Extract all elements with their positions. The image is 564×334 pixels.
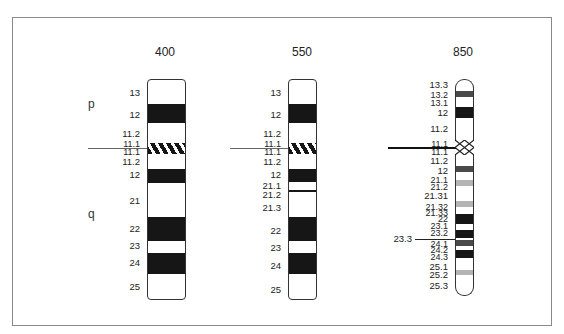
chromosome-850-q-arm: [455, 155, 474, 296]
band-q23-2: [456, 230, 473, 238]
label: 11.2: [241, 129, 281, 139]
label: 23.2: [412, 229, 448, 237]
label: 25.2: [412, 270, 448, 280]
marker-label-23-3: 23.3: [380, 234, 412, 244]
band-q12: [456, 166, 473, 172]
resolution-400-header: 400: [145, 45, 185, 59]
resolution-850-header: 850: [443, 45, 483, 59]
label: 13.3: [412, 80, 448, 90]
q-arm-label: q: [88, 207, 95, 221]
label: 11.2: [100, 129, 140, 139]
label: 21.2: [241, 190, 281, 200]
band-centromere-hatched: [289, 143, 316, 154]
label: 12: [412, 108, 448, 118]
centromere-crosshatch-850: [455, 140, 474, 155]
label: 11.1: [100, 148, 140, 156]
band-q12: [289, 169, 316, 182]
band-q12: [148, 169, 185, 183]
band-q24: [148, 253, 185, 274]
band-p13-2: [456, 91, 473, 97]
label: 24: [241, 261, 281, 271]
label: 11.1: [241, 148, 281, 156]
label: 11.2: [241, 157, 281, 167]
label: 22: [100, 224, 140, 234]
band-q24-3: [456, 250, 473, 258]
label: 24.3: [412, 253, 448, 261]
band-p12: [148, 104, 185, 123]
label: 25.3: [412, 281, 448, 291]
band-q24-1: [456, 240, 473, 246]
resolution-550-header: 550: [282, 45, 322, 59]
label: 23: [100, 241, 140, 251]
label: 25: [241, 285, 281, 295]
band-q24: [289, 253, 316, 274]
band-q22: [148, 217, 185, 241]
label: 13: [241, 88, 281, 98]
label: 12: [241, 170, 281, 180]
karyotype-figure: p q 400 13 12 11.2 11.1 11.1 11.2 12 21 …: [0, 0, 564, 334]
label: 21: [100, 196, 140, 206]
label: 11.2: [412, 124, 448, 134]
label: 25: [100, 282, 140, 292]
chromosome-850-p-arm: [455, 79, 474, 141]
label: 21.31: [412, 191, 448, 201]
band-p12: [456, 107, 473, 118]
band-q22: [289, 217, 316, 241]
band-centromere-hatched: [148, 143, 185, 154]
band-p12: [289, 104, 316, 123]
label: 21.3: [241, 203, 281, 213]
band-q21-32: [456, 201, 473, 207]
p-arm-label: p: [88, 97, 95, 111]
label: 12: [100, 110, 140, 120]
label: 22: [241, 226, 281, 236]
band-q22: [456, 214, 473, 224]
label: 11.2: [100, 157, 140, 167]
label: 12: [241, 110, 281, 120]
chromosome-400: [147, 79, 186, 300]
band-q21-2: [456, 180, 473, 186]
label: 23: [241, 243, 281, 253]
band-q25-2: [456, 270, 473, 275]
label: 13.1: [412, 99, 448, 107]
label: 12: [100, 170, 140, 180]
chromosome-550: [288, 79, 317, 300]
band-q21-2: [289, 190, 316, 192]
label: 24: [100, 258, 140, 268]
label: 13: [100, 88, 140, 98]
